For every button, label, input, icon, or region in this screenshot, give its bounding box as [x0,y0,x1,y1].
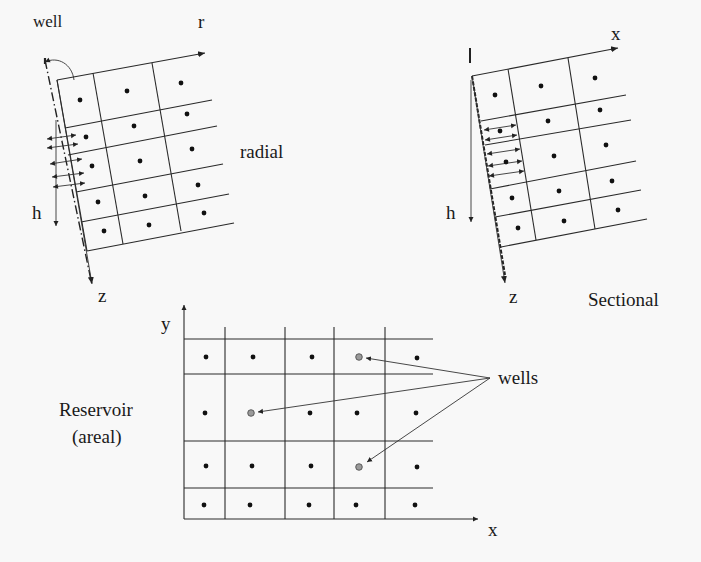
h-axis-label: h [32,203,42,222]
well-node [248,410,255,417]
z-axis-arrow [472,76,505,283]
z-axis-label: z [98,286,106,305]
radial-grid [45,53,234,285]
h-axis-label: h [446,203,456,222]
grid-nodes [202,354,420,508]
well-axis-line [45,60,92,285]
grid-nodes [493,76,621,231]
well-node [356,464,363,471]
wells-label: wells [498,368,538,387]
areal-title-line1: Reservoir [59,400,133,419]
r-axis-label: r [198,12,204,31]
z-axis-label: z [509,287,517,306]
y-axis-label: y [161,314,171,333]
areal-grid [184,305,490,519]
x-axis-arrow [472,48,618,76]
diagram-canvas [0,0,701,562]
x-axis-label: x [488,520,498,539]
x-axis-label: x [611,24,621,43]
well-node [356,354,363,361]
areal-title-line2: (areal) [72,427,122,446]
rotation-arc-icon [45,60,74,80]
r-axis-arrow [57,53,205,80]
radial-title: radial [240,142,283,161]
well-label: well [33,13,62,30]
sectional-title: Sectional [588,290,659,309]
reservoir-grid-figure: well r radial h z x h z Sectional y Rese… [0,0,701,562]
sectional-grid [470,48,647,283]
